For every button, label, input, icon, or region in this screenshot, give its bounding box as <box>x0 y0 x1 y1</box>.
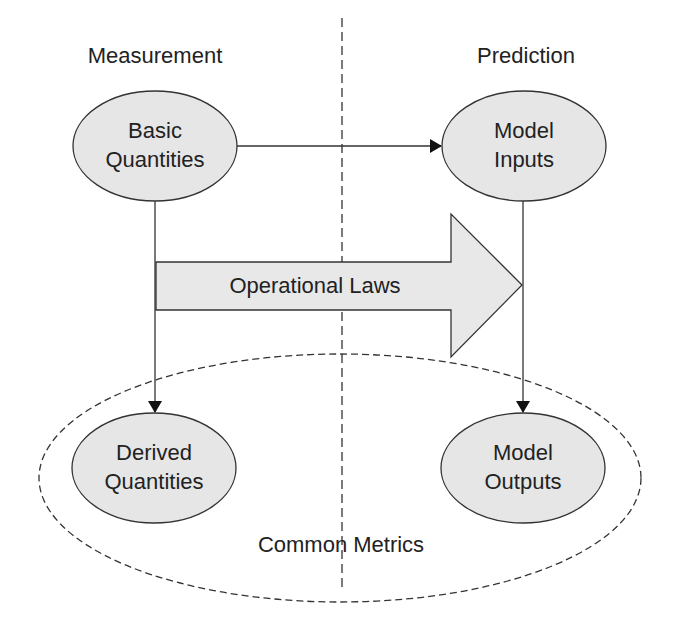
node-basic-quantities-line1: Basic <box>128 118 182 143</box>
node-derived-quantities: Derived Quantities <box>72 413 236 523</box>
node-model-inputs: Model Inputs <box>442 91 606 201</box>
node-model-outputs: Model Outputs <box>441 413 605 523</box>
node-derived-quantities-line2: Quantities <box>104 469 203 494</box>
operational-laws-label: Operational Laws <box>229 273 400 298</box>
node-derived-quantities-line1: Derived <box>116 440 192 465</box>
node-model-inputs-line2: Inputs <box>494 147 554 172</box>
common-metrics-label: Common Metrics <box>258 532 424 557</box>
node-basic-quantities-line2: Quantities <box>105 147 204 172</box>
diagram-canvas: Measurement Prediction Operational Laws … <box>0 0 677 620</box>
node-basic-quantities: Basic Quantities <box>73 91 237 201</box>
node-model-outputs-line2: Outputs <box>484 469 561 494</box>
section-label-measurement: Measurement <box>88 43 223 68</box>
section-label-prediction: Prediction <box>477 43 575 68</box>
node-model-inputs-line1: Model <box>494 118 554 143</box>
node-model-outputs-line1: Model <box>493 440 553 465</box>
